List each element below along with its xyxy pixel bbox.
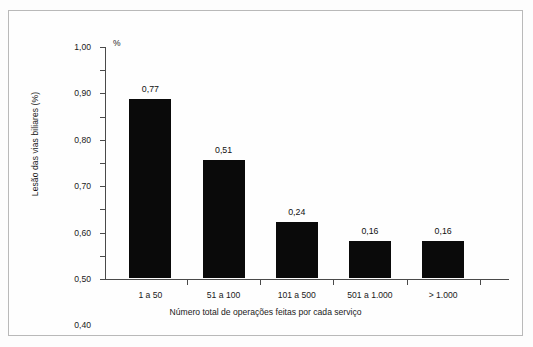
x-tick <box>480 279 481 285</box>
bar <box>422 241 464 278</box>
plot-area: 0,000,100,200,300,400,500,600,700,800,90… <box>105 47 509 279</box>
y-tick: 0,30 <box>100 209 105 210</box>
x-axis-title: Número total de operações feitas por cad… <box>9 307 522 317</box>
bar <box>129 99 171 278</box>
bar <box>276 222 318 278</box>
x-tick <box>333 279 334 285</box>
y-tick-label: 0,60 <box>74 228 91 238</box>
y-tick: 0,00 <box>100 279 105 280</box>
bar-value-label: 0,24 <box>288 207 305 217</box>
y-axis-line <box>105 47 106 280</box>
y-tick: 0,80 <box>100 93 105 94</box>
bar <box>349 241 391 278</box>
y-tick: 0,40 <box>100 186 105 187</box>
x-category-label: 101 a 500 <box>278 290 316 300</box>
bar-value-label: 0,77 <box>142 84 159 94</box>
x-category-label: > 1.000 <box>429 290 458 300</box>
y-tick-label: 0,90 <box>74 88 91 98</box>
y-tick: 0,70 <box>100 117 105 118</box>
bar-value-label: 0,16 <box>435 226 452 236</box>
y-tick-label: 0,80 <box>74 135 91 145</box>
y-tick: 0,10 <box>100 256 105 257</box>
x-category-label: 501 a 1.000 <box>347 290 392 300</box>
y-tick-label: 0,50 <box>74 274 91 284</box>
bar <box>203 160 245 278</box>
y-tick-label: 1,00 <box>74 42 91 52</box>
y-tick-label: 0,70 <box>74 181 91 191</box>
bar-value-label: 0,16 <box>361 226 378 236</box>
x-axis-line <box>105 279 509 280</box>
x-tick <box>407 279 408 285</box>
y-tick-label: 0,40 <box>74 320 91 330</box>
y-tick: 1,00 <box>100 47 105 48</box>
x-category-label: 51 a 100 <box>207 290 240 300</box>
y-tick: 0,20 <box>100 233 105 234</box>
x-tick <box>260 279 261 285</box>
y-axis-title: Lesão das vias biliares (%) <box>30 44 40 244</box>
x-category-label: 1 a 50 <box>138 290 162 300</box>
y-tick: 0,50 <box>100 163 105 164</box>
x-tick <box>187 279 188 285</box>
y-tick: 0,90 <box>100 70 105 71</box>
y-tick: 0,60 <box>100 140 105 141</box>
chart-figure: Lesão das vias biliares (%) % 0,000,100,… <box>8 10 523 336</box>
bar-value-label: 0,51 <box>215 145 232 155</box>
